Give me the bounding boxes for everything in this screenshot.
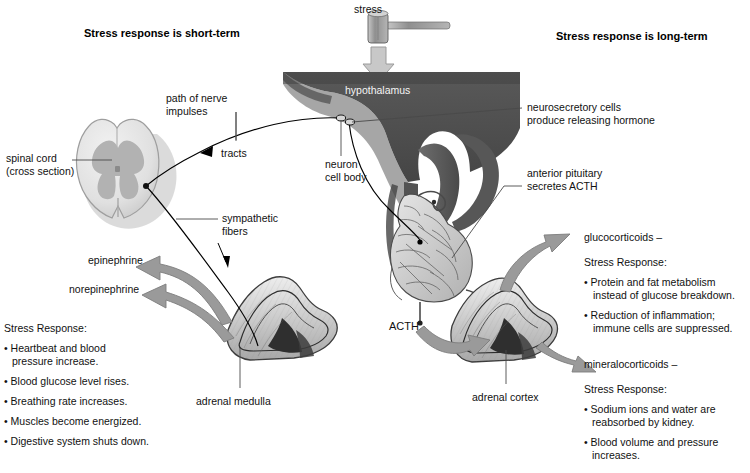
- list-item: Heartbeat and blood pressure increase.: [4, 342, 194, 368]
- panel-short-term-list: Heartbeat and blood pressure increase. B…: [4, 342, 194, 448]
- label-spinal-cord: spinal cord (cross section): [6, 152, 74, 177]
- adrenal-gland-medulla: [227, 277, 337, 360]
- list-item: Breathing rate increases.: [4, 395, 194, 408]
- list-item: Muscles become energized.: [4, 415, 194, 428]
- panel-mineralocorticoids-list: Sodium ions and water are reabsorbed by …: [584, 403, 750, 462]
- list-item: Blood glucose level rises.: [4, 375, 194, 388]
- panel-glucocorticoids-list: Protein and fat metabolism instead of gl…: [584, 276, 750, 335]
- label-tracts: tracts: [221, 147, 247, 160]
- panel-short-term-title: Stress Response:: [4, 322, 194, 335]
- label-adrenal-medulla: adrenal medulla: [196, 395, 271, 408]
- panel-glucocorticoids: Stress Response: Protein and fat metabol…: [584, 256, 750, 335]
- epinephrine-arrow: [136, 256, 232, 325]
- list-item: Blood volume and pressure increases.: [584, 436, 750, 462]
- label-epinephrine: epinephrine: [88, 254, 143, 267]
- label-neuron-cell-body: neuron cell body: [325, 158, 366, 183]
- list-item: Digestive system shuts down.: [4, 435, 194, 448]
- label-stress: stress: [354, 3, 382, 16]
- glucocorticoids-arrow: [500, 234, 570, 292]
- label-adrenal-cortex: adrenal cortex: [472, 391, 539, 404]
- panel-mineralocorticoids: Stress Response: Sodium ions and water a…: [584, 383, 750, 462]
- label-acth: ACTH: [389, 320, 419, 333]
- panel-short-term-response: Stress Response: Heartbeat and blood pre…: [4, 322, 194, 448]
- panel-glucocorticoids-title: Stress Response:: [584, 256, 750, 269]
- list-item: Protein and fat metabolism instead of gl…: [584, 276, 750, 302]
- heading-short-term: Stress response is short-term: [84, 27, 240, 40]
- label-hypothalamus: hypothalamus: [345, 84, 410, 97]
- heading-long-term: Stress response is long-term: [556, 30, 708, 43]
- label-path-of-nerve-impulses: path of nerve impulses: [166, 92, 227, 117]
- list-item: Sodium ions and water are reabsorbed by …: [584, 403, 750, 429]
- label-glucocorticoids: glucocorticoids –: [584, 231, 662, 244]
- list-item: Reduction of inflammation; immune cells …: [584, 309, 750, 335]
- panel-mineralocorticoids-title: Stress Response:: [584, 383, 750, 396]
- label-mineralocorticoids: mineralocorticoids –: [584, 358, 677, 371]
- label-sympathetic-fibers: sympathetic fibers: [222, 212, 278, 237]
- diagram-canvas: Stress response is short-term Stress res…: [0, 0, 750, 473]
- label-norepinephrine: norepinephrine: [69, 283, 139, 296]
- label-neurosecretory-cells: neurosecretory cells produce releasing h…: [527, 101, 655, 126]
- label-anterior-pituitary: anterior pituitary secretes ACTH: [527, 167, 602, 192]
